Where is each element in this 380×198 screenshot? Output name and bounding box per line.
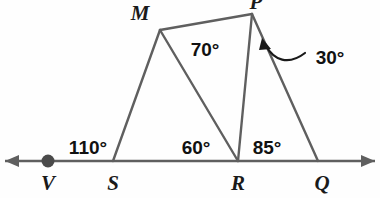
vertex-label-S: S [107, 171, 119, 195]
ray-left-arrowhead-icon [5, 155, 19, 167]
point-dot-V [42, 155, 55, 168]
vertex-label-V: V [41, 171, 57, 195]
angle-label-30: 30° [316, 47, 345, 68]
vertex-label-M: M [130, 1, 151, 25]
angle-label-85: 85° [253, 137, 282, 158]
vertex-label-R: R [230, 171, 245, 195]
segment-MP [160, 14, 252, 30]
angle-label-110: 110° [69, 137, 107, 158]
geometry-figure: V S R Q M P 110° 60° 85° 70° 30° [0, 0, 380, 198]
segment-SM [113, 30, 160, 161]
vertex-label-P: P [249, 0, 263, 14]
angle-label-70: 70° [191, 39, 220, 60]
vertex-label-Q: Q [314, 171, 329, 195]
geometry-canvas: V S R Q M P 110° 60° 85° 70° 30° [0, 0, 380, 198]
leader-arrowhead-30-icon [259, 38, 271, 50]
ray-right-arrowhead-icon [361, 155, 375, 167]
segment-PR [238, 14, 252, 161]
leader-arrow-30 [259, 38, 305, 60]
angle-label-60: 60° [182, 137, 211, 158]
